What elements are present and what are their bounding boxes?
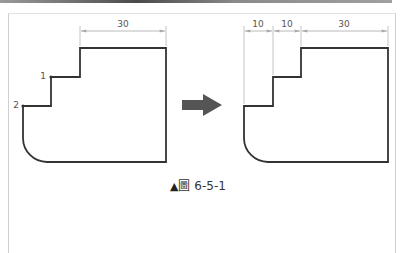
left-drawing: 30 1 2 <box>13 19 166 162</box>
figure-caption: ▲圖 6-5-1 <box>170 176 226 193</box>
right-drawing: 10 10 30 <box>244 19 388 162</box>
dimension-label-30: 30 <box>117 19 129 29</box>
point-1-marker <box>49 75 52 78</box>
point-2-marker <box>21 104 24 107</box>
dimension-label-30: 30 <box>338 19 350 29</box>
transform-arrow-icon <box>182 94 222 116</box>
dimension-label-10-b: 10 <box>281 19 293 29</box>
point-label-1: 1 <box>40 71 46 81</box>
caption-prefix: 圖 <box>178 179 190 193</box>
stepped-outline-left <box>23 48 166 162</box>
dimension-label-10-a: 10 <box>252 19 264 29</box>
stepped-outline-right <box>244 48 388 162</box>
point-label-2: 2 <box>13 100 19 110</box>
caption-number: 6-5-1 <box>194 179 226 193</box>
